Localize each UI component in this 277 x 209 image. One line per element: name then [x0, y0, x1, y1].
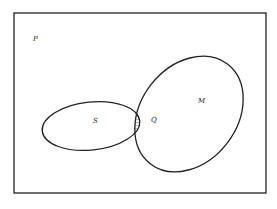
set-m-label: M: [197, 97, 206, 105]
universe-label: P: [32, 35, 38, 43]
venn-diagram: P S M Q: [0, 0, 277, 209]
intersection-label: Q: [151, 116, 157, 124]
set-s-label: S: [93, 117, 98, 125]
